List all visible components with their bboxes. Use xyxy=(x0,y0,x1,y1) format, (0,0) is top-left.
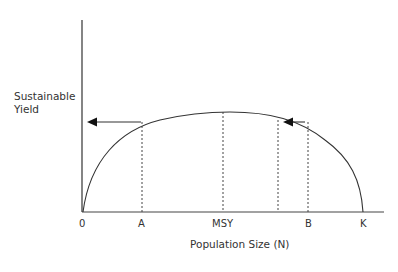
arrow-left-head-icon xyxy=(87,118,97,127)
tick-origin: 0 xyxy=(79,218,85,229)
tick-k: K xyxy=(360,218,367,229)
yield-diagram xyxy=(0,0,398,272)
y-axis-label-line2: Yield xyxy=(14,103,75,116)
y-axis-label-line1: Sustainable xyxy=(14,90,75,103)
x-axis-label: Population Size (N) xyxy=(190,238,289,250)
tick-msy: MSY xyxy=(212,218,233,229)
y-axis-label: Sustainable Yield xyxy=(14,90,75,116)
tick-a: A xyxy=(138,218,145,229)
tick-b: B xyxy=(305,218,312,229)
